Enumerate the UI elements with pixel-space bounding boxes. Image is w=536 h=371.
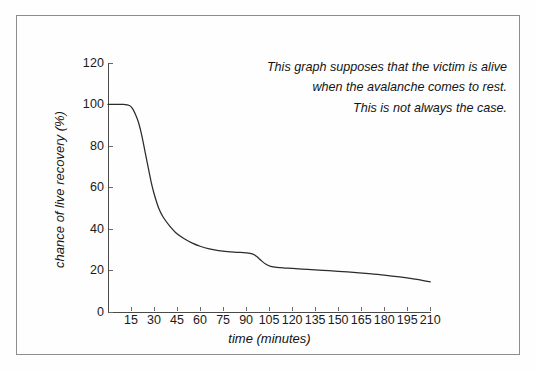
y-axis-title: chance of live recovery (%) [52,90,67,290]
figure-page: 020406080100120 153045607590105120135150… [0,0,536,371]
chart-annotation: This graph supposes that the victim is a… [215,57,507,118]
annotation-line-2: when the avalanche comes to rest. [215,77,507,97]
annotation-line-3: This is not always the case. [215,98,507,118]
chart-plot-area: 020406080100120 153045607590105120135150… [0,0,536,371]
x-axis-title: time (minutes) [108,331,431,346]
recovery-curve [0,0,536,371]
annotation-line-1: This graph supposes that the victim is a… [215,57,507,77]
